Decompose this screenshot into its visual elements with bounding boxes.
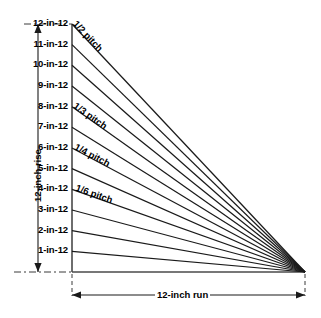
slope-label-3: 3-in-12: [0, 203, 68, 214]
slope-label-2: 2-in-12: [0, 224, 68, 235]
slope-label-7: 7-in-12: [0, 120, 68, 131]
slope-label-9: 9-in-12: [0, 79, 68, 90]
run-arrow-left-icon: [72, 291, 81, 298]
slope-label-12: 12-in-12: [0, 17, 68, 28]
slope-label-11: 11-in-12: [0, 38, 68, 49]
rise-arrow-down-icon: [34, 263, 41, 272]
slope-line-9: [72, 86, 305, 272]
slope-line-2: [72, 231, 305, 272]
slope-line-12: [72, 24, 305, 272]
rise-dimension-label: 12-inch rise: [32, 149, 43, 202]
slope-line-8: [72, 107, 305, 272]
slope-line-5: [72, 169, 305, 272]
slope-line-group: [72, 24, 305, 272]
run-arrow-right-icon: [296, 291, 305, 298]
roof-pitch-diagram: 12-in-12 11-in-12 10-in-12 9-in-12 8-in-…: [0, 0, 321, 318]
slope-label-10: 10-in-12: [0, 58, 68, 69]
run-dimension-label: 12-inch run: [155, 289, 210, 300]
slope-line-1: [72, 251, 305, 272]
slope-label-8: 8-in-12: [0, 100, 68, 111]
slope-label-1: 1-in-12: [0, 244, 68, 255]
